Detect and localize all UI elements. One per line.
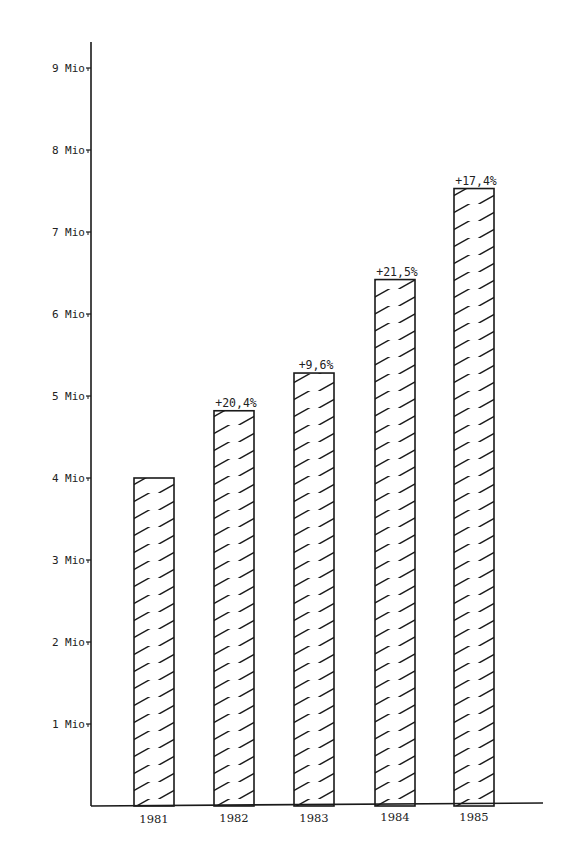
x-tick-label: 1982 bbox=[219, 811, 248, 825]
bars: +20,4%+9,6%+21,5%+17,4% bbox=[134, 174, 497, 806]
bar-1985: +17,4% bbox=[454, 174, 497, 806]
bar-rect bbox=[294, 373, 334, 806]
y-tick-label: 9 Mio bbox=[52, 62, 85, 75]
y-tick-label: 1 Mio bbox=[52, 718, 85, 731]
growth-label: +17,4% bbox=[455, 174, 497, 188]
bar-rect bbox=[134, 478, 174, 806]
bar-1983: +9,6% bbox=[294, 358, 334, 806]
bar-1984: +21,5% bbox=[375, 265, 418, 806]
bar-1982: +20,4% bbox=[214, 396, 257, 806]
y-tick-label: 8 Mio bbox=[52, 144, 85, 157]
x-tick-label: 1985 bbox=[459, 810, 488, 824]
x-tick-label: 1981 bbox=[139, 812, 168, 826]
y-tick-label: 4 Mio bbox=[52, 472, 85, 485]
y-tick-label: 5 Mio bbox=[52, 390, 85, 403]
bar-chart: 1 Mio2 Mio3 Mio4 Mio5 Mio6 Mio7 Mio8 Mio… bbox=[0, 0, 566, 862]
y-tick-label: 2 Mio bbox=[52, 636, 85, 649]
x-tick-label: 1984 bbox=[380, 810, 409, 824]
bar-1981 bbox=[134, 478, 174, 806]
bar-rect bbox=[454, 189, 494, 806]
y-axis: 1 Mio2 Mio3 Mio4 Mio5 Mio6 Mio7 Mio8 Mio… bbox=[52, 42, 91, 806]
growth-label: +21,5% bbox=[376, 265, 418, 279]
y-tick-label: 3 Mio bbox=[52, 554, 85, 567]
y-tick-label: 7 Mio bbox=[52, 226, 85, 239]
bar-rect bbox=[214, 411, 254, 806]
x-tick-label: 1983 bbox=[299, 811, 328, 825]
bar-rect bbox=[375, 280, 415, 806]
growth-label: +9,6% bbox=[299, 358, 334, 372]
growth-label: +20,4% bbox=[215, 396, 257, 410]
y-tick-label: 6 Mio bbox=[52, 308, 85, 321]
